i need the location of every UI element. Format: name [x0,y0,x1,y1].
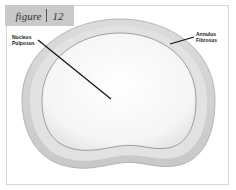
figure-number-label: figure 12 [5,5,74,26]
annulus-label-line2: Fibrosus [196,38,217,44]
label-separator [46,9,47,22]
annulus-fibrosus-callout: Annulus Fibrosus [196,32,217,43]
figure-word: figure [16,10,42,22]
nucleus-pulposus-callout: Nucleus Pulposus [12,35,35,46]
nucleus-label-line2: Pulposus [12,41,35,47]
figure-number: 12 [52,10,63,22]
intervertebral-disc-illustration [0,0,236,190]
